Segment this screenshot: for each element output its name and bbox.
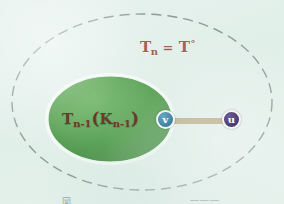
caption-left-fragment: 図 (62, 195, 72, 204)
inner-label-t: T (62, 110, 73, 128)
outer-label-t: T (140, 38, 152, 56)
inner-region-label: Tn-1(Kn-1) (62, 108, 139, 129)
inner-label-subscript-1: n-1 (73, 118, 91, 129)
inner-label-subscript-2: n-1 (113, 118, 131, 129)
outer-label-superscript: ° (191, 38, 197, 49)
node-u-label: u (228, 114, 235, 125)
outer-label-equals: = (162, 40, 173, 55)
node-v[interactable]: v (156, 110, 175, 129)
node-u[interactable]: u (222, 110, 241, 129)
node-v-label: v (163, 114, 169, 125)
caption-right-fragment: ——— (190, 195, 220, 204)
figure-canvas: Tn=T° Tn-1(Kn-1) v u 図 ——— (0, 0, 284, 204)
inner-label-open-paren: ( (92, 108, 100, 128)
inner-label-close-paren: ) (131, 108, 139, 128)
outer-region-label: Tn=T° (140, 38, 196, 57)
inner-label-k: K (100, 110, 113, 128)
caption-strip: 図 ——— (0, 195, 284, 204)
diagram-svg (0, 0, 284, 204)
outer-label-subscript: n (151, 46, 159, 57)
outer-label-t-star: T (179, 38, 191, 56)
